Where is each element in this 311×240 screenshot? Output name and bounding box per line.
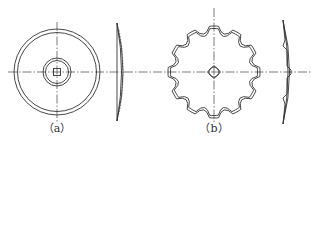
panel-b-label: （b）	[199, 123, 228, 135]
panel-a-label: （a）	[43, 123, 72, 135]
